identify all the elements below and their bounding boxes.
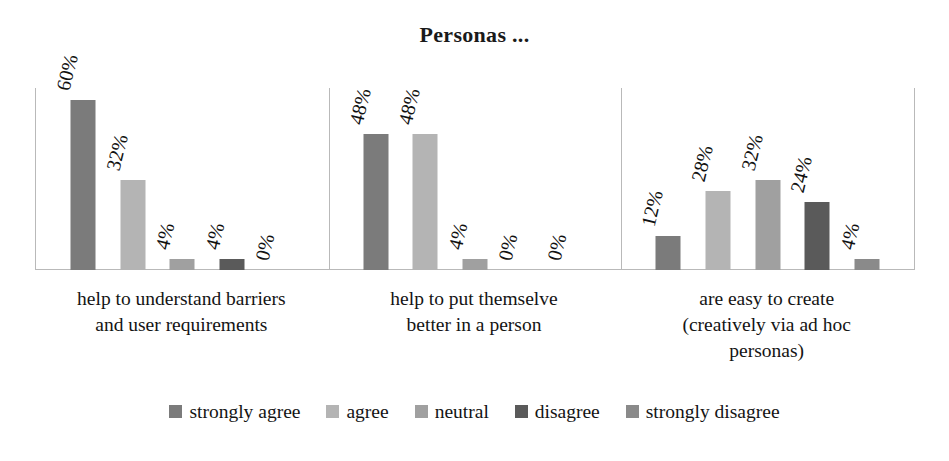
category-label-line: help to understand barriers: [35, 286, 328, 312]
legend-label: strongly agree: [189, 402, 300, 422]
bar[interactable]: [120, 180, 145, 271]
bar-value-label: 4%: [836, 220, 865, 251]
category-label-line: help to put themselve: [328, 286, 621, 312]
bar-slot[interactable]: 0%: [550, 88, 600, 270]
bar-slot[interactable]: 32%: [743, 88, 793, 270]
bar-slot[interactable]: 12%: [643, 88, 693, 270]
bar[interactable]: [70, 100, 95, 270]
legend-item[interactable]: disagree: [515, 402, 600, 422]
bar-chart: Personas ... 60%32%4%4%0%48%48%4%0%0%12%…: [0, 0, 949, 461]
legend-swatch-icon: [626, 405, 639, 418]
category-labels: help to understand barriersand user requ…: [35, 286, 915, 386]
bar-value-label: 12%: [637, 188, 668, 229]
bar-value-label: 60%: [52, 52, 83, 93]
bar-value-label: 4%: [151, 220, 180, 251]
bar[interactable]: [805, 202, 830, 270]
bar[interactable]: [363, 134, 388, 270]
bar-slot[interactable]: 4%: [450, 88, 500, 270]
legend-swatch-icon: [515, 405, 528, 418]
bar[interactable]: [170, 259, 195, 270]
bar-value-label: 48%: [344, 86, 375, 127]
bar-value-label: 0%: [543, 232, 572, 263]
chart-title: Personas ...: [0, 22, 949, 48]
legend-label: agree: [346, 402, 388, 422]
bar-group: 12%28%32%24%4%: [621, 88, 914, 270]
category-label-line: are easy to create: [620, 286, 913, 312]
category-label-line: better in a person: [328, 312, 621, 338]
bar[interactable]: [705, 191, 730, 270]
bar-slot[interactable]: 4%: [842, 88, 892, 270]
category-label-line: personas): [620, 338, 913, 364]
bar[interactable]: [413, 134, 438, 270]
chart-legend: strongly agreeagreeneutraldisagreestrong…: [0, 402, 949, 422]
legend-label: disagree: [535, 402, 600, 422]
category-label-line: and user requirements: [35, 312, 328, 338]
bar-value-label: 4%: [201, 220, 230, 251]
bar-slot[interactable]: 48%: [400, 88, 450, 270]
bar[interactable]: [855, 259, 880, 270]
bar-slot[interactable]: 28%: [693, 88, 743, 270]
legend-item[interactable]: strongly disagree: [626, 402, 780, 422]
bar-value-label: 0%: [250, 232, 279, 263]
category-label: help to understand barriersand user requ…: [35, 286, 328, 338]
bar-group: 60%32%4%4%0%: [36, 88, 329, 270]
legend-label: strongly disagree: [646, 402, 780, 422]
bar[interactable]: [755, 180, 780, 271]
legend-item[interactable]: strongly agree: [169, 402, 300, 422]
bar-value-label: 4%: [444, 220, 473, 251]
bar-slot[interactable]: 0%: [257, 88, 307, 270]
legend-item[interactable]: neutral: [415, 402, 489, 422]
bar-slot[interactable]: 4%: [207, 88, 257, 270]
bar-slot[interactable]: 48%: [351, 88, 401, 270]
category-label: help to put themselvebetter in a person: [328, 286, 621, 338]
legend-item[interactable]: agree: [326, 402, 388, 422]
category-label: are easy to create(creatively via ad hoc…: [620, 286, 913, 364]
legend-swatch-icon: [169, 405, 182, 418]
bar-slot[interactable]: 32%: [108, 88, 158, 270]
bar-group: 48%48%4%0%0%: [329, 88, 622, 270]
bar-slot[interactable]: 0%: [500, 88, 550, 270]
bar[interactable]: [220, 259, 245, 270]
bar-slot[interactable]: 60%: [58, 88, 108, 270]
bar-slot[interactable]: 24%: [793, 88, 843, 270]
legend-label: neutral: [435, 402, 489, 422]
category-label-line: (creatively via ad hoc: [620, 312, 913, 338]
bar-slot[interactable]: 4%: [157, 88, 207, 270]
bar[interactable]: [462, 259, 487, 270]
plot-area: 60%32%4%4%0%48%48%4%0%0%12%28%32%24%4%: [35, 88, 915, 270]
bar[interactable]: [656, 236, 681, 270]
legend-swatch-icon: [326, 405, 339, 418]
legend-swatch-icon: [415, 405, 428, 418]
